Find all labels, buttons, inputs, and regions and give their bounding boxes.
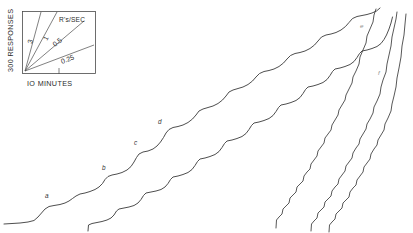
rate-calibration-legend: 3 1 0.5 0.25 R's/SEC 300 RESPONSES IO MI…: [6, 9, 96, 88]
record-trace-steep-1: [276, 9, 376, 228]
y-axis-label: 300 RESPONSES: [6, 9, 15, 72]
rate-units-label: R's/SEC: [59, 16, 85, 23]
curve-label-f: f: [378, 69, 381, 76]
cumulative-record-figure: 3 1 0.5 0.25 R's/SEC 300 RESPONSES IO MI…: [0, 0, 413, 233]
steep-record-2-path: [311, 12, 397, 231]
curve-label-d: d: [158, 118, 162, 125]
curve-label-b: b: [102, 164, 106, 171]
record-trace-steep-2: [311, 12, 397, 231]
x-axis-label: IO MINUTES: [27, 79, 72, 88]
curve-label-a: a: [45, 192, 49, 199]
steep-record-1-path: [276, 9, 376, 228]
curve-label-e: e: [360, 22, 364, 29]
curve-label-c: c: [134, 139, 138, 146]
